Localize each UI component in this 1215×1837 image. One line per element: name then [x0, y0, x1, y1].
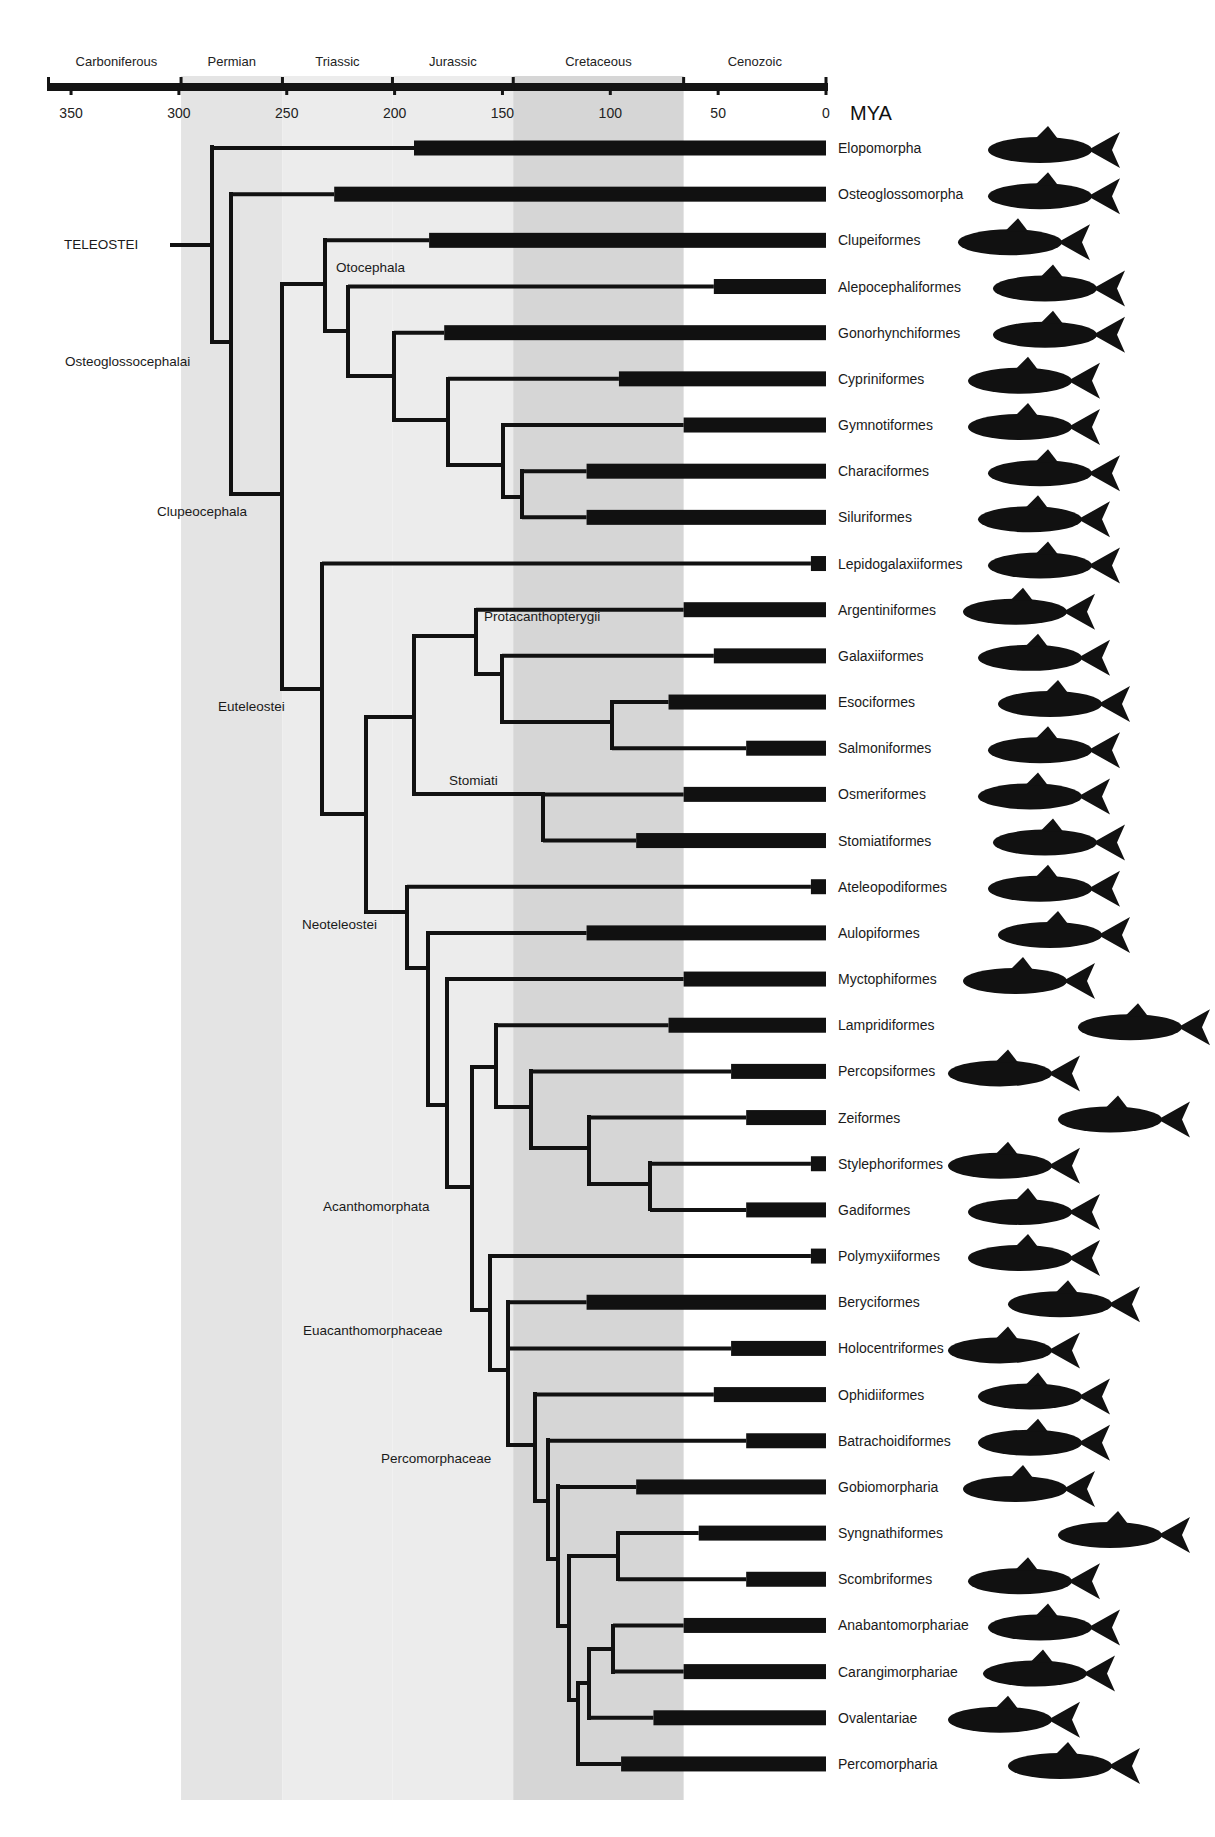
fish-fin-icon	[1040, 819, 1063, 832]
taxon-label-alepocephaliformes: Alepocephaliformes	[838, 279, 961, 295]
lineage-bar-gonorhynchiformes	[444, 325, 826, 340]
lineage-bar-scombriformes	[746, 1572, 826, 1587]
lineage-bar-anabantomorphariae	[684, 1618, 826, 1633]
fish-silhouette-icon	[968, 1557, 1100, 1599]
fish-silhouette-icon	[988, 126, 1120, 168]
lineage-bar-stomiatiformes	[636, 833, 826, 848]
taxon-label-gonorhynchiformes: Gonorhynchiformes	[838, 325, 960, 341]
fish-silhouette-icon	[968, 357, 1100, 399]
taxon-labels: ElopomorphaOsteoglossomorphaClupeiformes…	[838, 140, 969, 1772]
lineage-bar-ateleopodiformes	[811, 879, 826, 894]
fish-fin-icon	[1045, 911, 1068, 924]
lineage-bar-alepocephaliformes	[714, 279, 826, 294]
fish-tail-icon	[1088, 548, 1120, 584]
fish-body-icon	[988, 553, 1092, 579]
fish-silhouette-icon	[978, 772, 1110, 814]
fish-tail-icon	[1068, 363, 1100, 399]
fish-fin-icon	[995, 1142, 1018, 1155]
fish-fin-icon	[1005, 218, 1028, 231]
fish-body-icon	[968, 368, 1072, 394]
fish-silhouette-icon	[978, 1373, 1110, 1415]
fish-silhouette-icon	[993, 265, 1125, 307]
fish-tail-icon	[1078, 640, 1110, 676]
period-band-triassic	[282, 76, 392, 1800]
phylogenetic-tree: CarboniferousPermianTriassicJurassicCret…	[0, 0, 1215, 1837]
taxon-label-percomorpharia: Percomorpharia	[838, 1756, 938, 1772]
fish-fin-icon	[995, 1696, 1018, 1709]
lineage-bar-elopomorpha	[414, 141, 826, 156]
fish-tail-icon	[1098, 686, 1130, 722]
fish-body-icon	[978, 506, 1082, 532]
fish-body-icon	[963, 1476, 1067, 1502]
lineage-bar-gobiomorpharia	[636, 1479, 826, 1494]
tick-label-350: 350	[59, 105, 83, 121]
axis-bar	[47, 83, 828, 91]
clade-label-teleostei: TELEOSTEI	[64, 237, 138, 252]
axis-tick	[70, 87, 73, 95]
fish-silhouette-icon	[988, 542, 1120, 584]
fish-body-icon	[988, 183, 1092, 209]
taxon-label-syngnathiformes: Syngnathiformes	[838, 1525, 943, 1541]
fish-silhouette-icon	[948, 1049, 1080, 1091]
fish-silhouette-icon	[958, 218, 1090, 260]
fish-body-icon	[988, 460, 1092, 486]
lineage-bar-ophidiiformes	[714, 1387, 826, 1402]
fish-silhouette-icon	[1008, 1280, 1140, 1322]
lineage-bar-zeiformes	[746, 1110, 826, 1125]
fish-silhouette-icon	[963, 588, 1095, 630]
lineage-bar-gymnotiformes	[684, 418, 826, 433]
fish-tail-icon	[1178, 1009, 1210, 1045]
fish-tail-icon	[1063, 594, 1095, 630]
fish-tail-icon	[1108, 1286, 1140, 1322]
fish-silhouette-icon	[998, 911, 1130, 953]
taxon-label-scombriformes: Scombriformes	[838, 1571, 932, 1587]
fish-silhouette-icon	[978, 1419, 1110, 1461]
taxon-label-gadiformes: Gadiformes	[838, 1202, 910, 1218]
fish-body-icon	[948, 1707, 1052, 1733]
fish-body-icon	[963, 599, 1067, 625]
taxon-label-elopomorpha: Elopomorpha	[838, 140, 921, 156]
fish-fin-icon	[1035, 726, 1058, 739]
fish-silhouette-icon	[968, 1234, 1100, 1276]
fish-body-icon	[1058, 1107, 1162, 1133]
fish-fin-icon	[1015, 357, 1038, 370]
period-label-cretaceous: Cretaceous	[565, 54, 632, 69]
fish-silhouette-icon	[993, 311, 1125, 353]
fish-fin-icon	[1035, 865, 1058, 878]
lineage-bar-clupeiformes	[429, 233, 826, 248]
fish-tail-icon	[1078, 1379, 1110, 1415]
fish-tail-icon	[1088, 455, 1120, 491]
taxon-label-gymnotiformes: Gymnotiformes	[838, 417, 933, 433]
fish-fin-icon	[1045, 680, 1068, 693]
fish-fin-icon	[1035, 172, 1058, 185]
taxon-label-gobiomorpharia: Gobiomorpharia	[838, 1479, 939, 1495]
period-boundary-tick	[512, 77, 515, 91]
fish-tail-icon	[1088, 178, 1120, 214]
tick-label-50: 50	[710, 105, 726, 121]
fish-silhouettes	[948, 126, 1210, 1784]
lineage-bar-batrachoidiformes	[746, 1433, 826, 1448]
fish-body-icon	[983, 1661, 1087, 1687]
clade-label-protacanthopterygii: Protacanthopterygii	[484, 609, 600, 624]
fish-tail-icon	[1088, 132, 1120, 168]
fish-silhouette-icon	[968, 403, 1100, 445]
taxon-label-siluriformes: Siluriformes	[838, 509, 912, 525]
fish-fin-icon	[995, 1326, 1018, 1339]
fish-tail-icon	[1078, 778, 1110, 814]
axis-unit-label: MYA	[850, 102, 893, 124]
lineage-bar-ovalentariae	[653, 1710, 826, 1725]
lineage-bar-osmeriformes	[684, 787, 826, 802]
fish-tail-icon	[1068, 409, 1100, 445]
lineage-bar-salmoniformes	[746, 741, 826, 756]
tick-label-200: 200	[383, 105, 407, 121]
lineage-bar-galaxiiformes	[714, 648, 826, 663]
taxon-label-salmoniformes: Salmoniformes	[838, 740, 931, 756]
axis-tick	[393, 87, 396, 95]
fish-tail-icon	[1048, 1148, 1080, 1184]
fish-body-icon	[978, 645, 1082, 671]
fish-fin-icon	[1035, 542, 1058, 555]
taxon-label-beryciformes: Beryciformes	[838, 1294, 920, 1310]
fish-body-icon	[948, 1153, 1052, 1179]
taxon-label-batrachoidiformes: Batrachoidiformes	[838, 1433, 951, 1449]
fish-tail-icon	[1083, 1656, 1115, 1692]
